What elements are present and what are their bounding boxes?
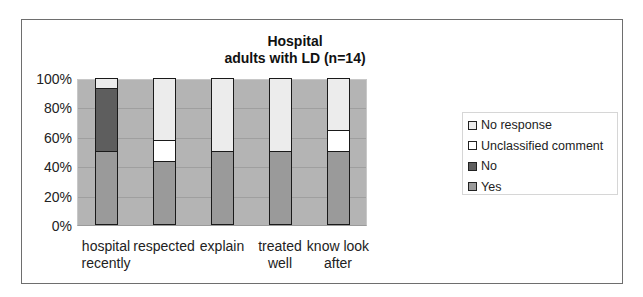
legend-label: Yes	[481, 180, 501, 194]
bar-know-look-after	[327, 78, 350, 225]
x-tick-label: know lookafter	[298, 238, 378, 272]
bar-explain	[211, 78, 234, 225]
legend-label: No response	[481, 118, 552, 132]
legend-item-no-response: No response	[468, 117, 552, 133]
chart-title-line-2: adults with LD (n=14)	[160, 50, 430, 67]
segment-yes	[154, 162, 175, 224]
chart-title: Hospital adults with LD (n=14)	[160, 33, 430, 67]
bar-treated-well	[269, 78, 292, 225]
segment-yes	[96, 152, 117, 225]
segment-no-response	[96, 79, 117, 89]
segment-no-response	[212, 79, 233, 152]
legend-label: No	[481, 159, 497, 173]
y-tick-label: 20%	[30, 190, 72, 204]
bar-respected	[153, 78, 176, 225]
legend-swatch-icon	[468, 162, 477, 171]
legend-swatch-icon	[468, 121, 477, 130]
segment-no-response	[270, 79, 291, 152]
segment-no	[96, 89, 117, 151]
y-tick-label: 0%	[30, 219, 72, 233]
legend: No responseUnclassified commentNoYes	[462, 112, 618, 195]
legend-swatch-icon	[468, 141, 477, 150]
y-tick-label: 40%	[30, 160, 72, 174]
legend-label: Unclassified comment	[481, 139, 603, 153]
segment-yes	[328, 152, 349, 225]
legend-item-yes: Yes	[468, 179, 501, 195]
segment-yes	[270, 152, 291, 225]
plot-area	[77, 79, 367, 226]
y-tick-label: 100%	[30, 72, 72, 86]
legend-item-no: No	[468, 158, 497, 174]
segment-unclassified-comment	[328, 131, 349, 151]
segment-unclassified-comment	[154, 141, 175, 161]
y-tick-label: 80%	[30, 101, 72, 115]
y-tick-label: 60%	[30, 131, 72, 145]
legend-item-unclassified-comment: Unclassified comment	[468, 138, 603, 154]
legend-swatch-icon	[468, 182, 477, 191]
chart-title-line-1: Hospital	[160, 33, 430, 50]
segment-no-response	[328, 79, 349, 131]
segment-yes	[212, 152, 233, 225]
segment-no-response	[154, 79, 175, 141]
bar-hospital-recently	[95, 78, 118, 225]
